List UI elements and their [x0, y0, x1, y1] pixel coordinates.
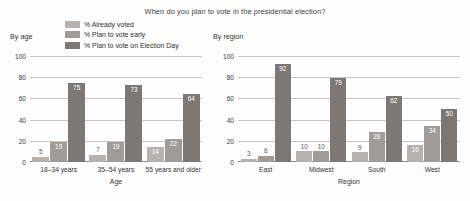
bar: 5: [32, 157, 49, 162]
y-axis-tick-label: 80: [19, 74, 26, 81]
bar: 14: [147, 147, 164, 162]
bar-value-label: 10: [301, 144, 308, 150]
y-axis-tick-label: 60: [227, 95, 234, 102]
bar-value-label: 19: [112, 144, 119, 150]
bar-value-label: 6: [264, 148, 268, 154]
x-axis-title: Age: [30, 178, 202, 185]
bar-group: 5197518–34 years: [30, 56, 87, 162]
x-axis-tick-label: Midwest: [309, 166, 334, 173]
bar: 10: [313, 151, 329, 162]
plot-area-age: 0204060801005197518–34 years7197335–54 y…: [30, 56, 202, 162]
bar-group: 92862South: [349, 56, 405, 162]
y-axis-tick-label: 40: [19, 116, 26, 123]
y-axis-tick-label: 20: [19, 137, 26, 144]
y-axis-tick-label: 80: [227, 74, 234, 81]
bar: 6: [258, 156, 274, 162]
bar-value-label: 22: [170, 141, 177, 147]
panel-caption-age: By age: [10, 32, 32, 41]
bar-value-label: 28: [373, 134, 380, 140]
bar-group: 7197335–54 years: [87, 56, 144, 162]
bar-group: 14226455 years and older: [145, 56, 202, 162]
bar-value-label: 50: [446, 111, 453, 117]
y-axis-tick-label: 40: [227, 116, 234, 123]
bar: 10: [296, 151, 312, 162]
x-axis-title: Region: [238, 178, 460, 185]
bar-value-label: 16: [412, 147, 419, 153]
bar: 7: [89, 155, 106, 162]
plot-area-region: 0204060801003692East101079Midwest92862So…: [238, 56, 460, 162]
bar-groups: 3692East101079Midwest92862South163450Wes…: [238, 56, 460, 162]
bar-group: 163450West: [405, 56, 461, 162]
bar-value-label: 7: [96, 147, 100, 153]
bar: 19: [107, 142, 124, 162]
bar: 34: [424, 126, 440, 162]
bar-value-label: 79: [335, 80, 342, 86]
bar: 22: [165, 139, 182, 162]
bar-groups: 5197518–34 years7197335–54 years14226455…: [30, 56, 202, 162]
y-axis-tick-label: 100: [15, 53, 26, 60]
bar: 9: [352, 152, 368, 162]
y-axis-tick-label: 20: [227, 137, 234, 144]
bar-group: 3692East: [238, 56, 294, 162]
bar-value-label: 3: [247, 151, 251, 157]
bar-group: 101079Midwest: [294, 56, 350, 162]
y-axis-tick-label: 0: [230, 159, 234, 166]
y-axis-tick-label: 0: [22, 159, 26, 166]
bar-value-label: 5: [39, 149, 43, 155]
panel-by-age: By age 0204060801005197518–34 years71973…: [0, 0, 210, 201]
y-axis-tick-label: 100: [223, 53, 234, 60]
bar: 62: [386, 96, 402, 162]
y-axis-tick-label: 60: [19, 95, 26, 102]
bar: 16: [407, 145, 423, 162]
bar-value-label: 75: [73, 85, 80, 91]
bar-value-label: 34: [429, 128, 436, 134]
bar-value-label: 10: [318, 144, 325, 150]
bar: 75: [68, 83, 85, 163]
bar-value-label: 9: [358, 145, 362, 151]
bar: 92: [275, 64, 291, 162]
bar: 73: [125, 85, 142, 162]
x-axis-tick-label: 55 years and older: [146, 166, 201, 173]
bar-value-label: 19: [55, 144, 62, 150]
x-axis-tick-label: 35–54 years: [98, 166, 135, 173]
bar-value-label: 64: [188, 96, 195, 102]
bar-value-label: 14: [152, 149, 159, 155]
bar: 3: [241, 159, 257, 162]
x-axis-tick-label: South: [368, 166, 385, 173]
bar-value-label: 73: [130, 87, 137, 93]
panel-by-region: By region 0204060801003692East101079Midw…: [210, 0, 470, 201]
bar-value-label: 92: [279, 66, 286, 72]
bar-value-label: 62: [390, 98, 397, 104]
bar: 19: [50, 142, 67, 162]
x-axis-tick-label: 18–34 years: [40, 166, 77, 173]
bar: 79: [330, 78, 346, 162]
x-axis-tick-label: West: [425, 166, 440, 173]
panel-caption-region: By region: [213, 32, 243, 41]
bar: 64: [183, 94, 200, 162]
bar: 28: [369, 132, 385, 162]
x-axis-tick-label: East: [259, 166, 272, 173]
bar: 50: [441, 109, 457, 162]
chart-page: When do you plan to vote in the presiden…: [0, 0, 470, 201]
